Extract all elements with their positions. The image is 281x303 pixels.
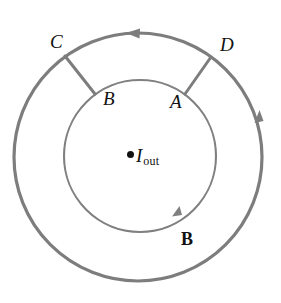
segment-D-to-A — [185, 57, 211, 94]
magnetic-field-label: B — [181, 230, 193, 248]
current-out-dot-icon — [127, 151, 134, 158]
current-subscript: out — [143, 155, 159, 167]
current-out-label: I out — [127, 146, 159, 165]
outer-loop-top-arrow — [126, 29, 140, 39]
point-label-a: A — [170, 92, 182, 111]
figure-canvas: C D B A B I out — [0, 0, 281, 303]
point-label-b: B — [103, 89, 115, 108]
point-label-d: D — [220, 35, 234, 54]
current-symbol: I — [136, 146, 142, 165]
segment-C-to-B — [65, 56, 95, 94]
inner-loop-bottom-arrow — [172, 206, 182, 217]
point-label-c: C — [50, 32, 63, 51]
